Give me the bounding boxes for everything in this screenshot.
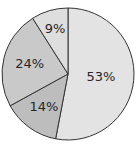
- slice-label: 9%: [45, 21, 66, 36]
- slice-label: 24%: [15, 56, 44, 71]
- slice-label: 53%: [86, 69, 115, 84]
- pie-chart: 53%14%24%9%: [0, 0, 137, 148]
- slice-label: 14%: [29, 99, 58, 114]
